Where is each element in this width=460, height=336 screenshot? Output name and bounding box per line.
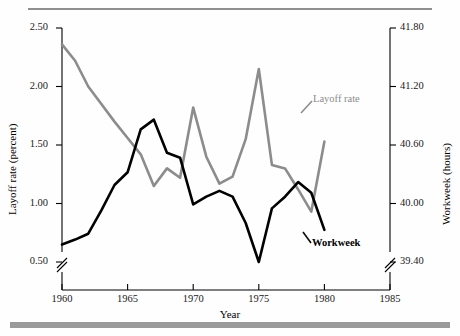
x-tick-1985: 1985 <box>368 293 412 304</box>
x-axis-ticks <box>62 284 390 290</box>
series-label-layoff-rate: Layoff rate <box>313 93 360 104</box>
y-right-tick-39-40: 39.40 <box>400 255 448 266</box>
y-right-axis-title: Workweek (hours) <box>440 143 452 225</box>
x-axis-title: Year <box>0 308 460 320</box>
y-left-tick-2-00: 2.00 <box>8 80 48 91</box>
right-axis-ticks <box>390 28 396 262</box>
x-tick-1980: 1980 <box>302 293 346 304</box>
right-axis-break-icon <box>385 258 395 272</box>
y-left-tick-2-50: 2.50 <box>8 21 48 32</box>
left-axis-ticks <box>56 28 62 262</box>
layoff-label-leader <box>301 101 312 113</box>
x-tick-1975: 1975 <box>237 293 281 304</box>
left-axis-break-icon <box>57 258 67 272</box>
workweek-label-leader <box>303 232 311 243</box>
x-tick-1970: 1970 <box>171 293 215 304</box>
y-left-tick-0-50: 0.50 <box>8 255 48 266</box>
plot-area <box>0 0 460 336</box>
y-right-tick-41-80: 41.80 <box>400 21 448 32</box>
y-left-axis-title: Layoff rate (percent) <box>6 124 18 215</box>
chart-figure: { "chart_data": { "type": "line", "title… <box>0 0 460 336</box>
x-tick-1965: 1965 <box>106 293 150 304</box>
series-label-workweek: Workweek <box>312 237 360 248</box>
series-layoff-rate <box>62 44 324 211</box>
series-workweek <box>62 120 324 262</box>
x-tick-1960: 1960 <box>40 293 84 304</box>
y-right-tick-41-20: 41.20 <box>400 80 448 91</box>
